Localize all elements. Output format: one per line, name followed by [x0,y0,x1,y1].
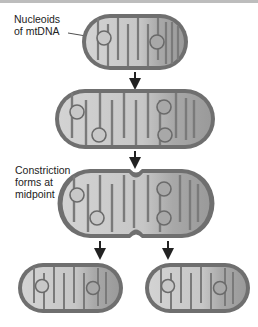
nucleoid [87,282,100,295]
mitochondrion-daughter-left [18,263,123,313]
nucleoid [90,211,104,225]
mitochondrial-fission-diagram [0,0,258,327]
nucleoid [157,182,171,196]
nucleoid [157,211,171,225]
nucleoid [162,280,175,293]
mitochondrion-elongated [55,89,215,149]
nucleoid [157,100,171,114]
mitochondrion-constricted [58,169,215,238]
nucleoid [70,105,84,119]
nucleoid [158,128,172,142]
nucleoid [70,188,84,202]
nucleoid [97,31,111,45]
nucleoid [92,128,106,142]
mitochondrion-daughter-right [145,263,250,313]
mitochondrion-parent [82,14,188,70]
nucleoid [214,282,227,295]
nucleoid [36,280,49,293]
nucleoid [150,35,164,49]
